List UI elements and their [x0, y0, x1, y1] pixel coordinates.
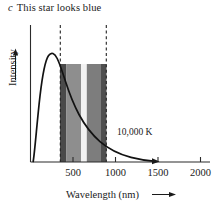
- temperature-annotation: 10,000 K: [117, 127, 153, 137]
- x-tick-label-500: 500: [65, 167, 81, 178]
- x-tick-label-1500: 1500: [148, 167, 169, 178]
- x-axis-arrow-head: [169, 192, 176, 197]
- x-tick-label-1000: 1000: [105, 167, 126, 178]
- y-axis-title: Intensity: [7, 49, 18, 86]
- band-stripe-orange: [87, 64, 101, 162]
- band-stripe-violet: [60, 64, 67, 162]
- band-stripe-red: [101, 64, 107, 162]
- x-axis-title: Wavelength (nm): [66, 189, 139, 201]
- band-stripe-yellow: [81, 64, 87, 162]
- x-axis-label-group: Wavelength (nm): [66, 189, 176, 201]
- blackbody-curve-chart: 500 1000 1500 2000 10,000 K Intensity Wa…: [0, 0, 220, 210]
- x-tick-label-2000: 2000: [190, 167, 211, 178]
- y-axis-label-group: Intensity: [7, 49, 19, 87]
- visible-spectrum-band: [60, 64, 107, 162]
- figure-panel-c: cThis star looks blue 500 1000 1500 2000: [0, 0, 220, 210]
